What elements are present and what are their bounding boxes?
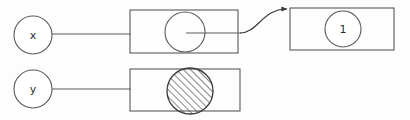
node-value-one[interactable]: 1 <box>325 11 361 47</box>
var-x-label: x <box>30 29 37 42</box>
node-var-y[interactable]: y <box>14 70 52 108</box>
diagram-svg: x y 1 <box>0 0 410 120</box>
value-one-label: 1 <box>340 23 347 36</box>
node-box-bottom-inner-circle[interactable] <box>167 68 213 114</box>
var-y-label: y <box>30 83 37 96</box>
node-var-x[interactable]: x <box>14 16 52 54</box>
diagram-canvas: x y 1 <box>0 0 410 120</box>
